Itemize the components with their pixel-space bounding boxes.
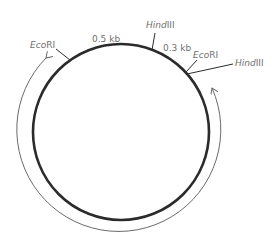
hindiii-right-tick [187,64,233,74]
ecori-left-tick [56,49,70,60]
ecori-right-tick [186,60,197,72]
hindiii-top-tick [152,33,155,50]
plasmid-circle [33,44,209,220]
ecori-left-label: EcoRI [30,40,55,50]
ecori-right-label: EcoRI [193,50,218,60]
hindiii-top-label: HindIII [146,20,175,30]
hindiii-right-label: HindIII [235,58,264,68]
plasmid-map: EcoRI 0.5 kb HindIII 0.3 kb EcoRI HindII… [0,0,280,244]
fragment-label-0-3kb: 0.3 kb [163,43,191,53]
fragment-label-0-5kb: 0.5 kb [92,34,120,44]
